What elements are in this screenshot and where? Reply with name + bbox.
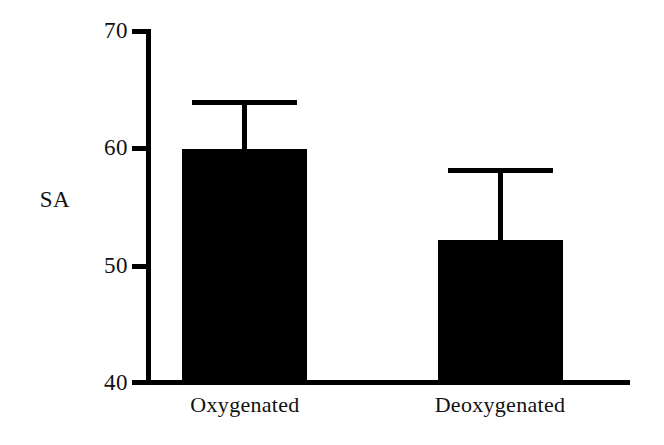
y-tick-label-70-wrap: 70 (58, 19, 128, 43)
y-tick-60 (132, 146, 150, 151)
x-category-label-deoxygenated: Deoxygenated (410, 392, 590, 418)
errorbar-cap-oxygenated (192, 100, 297, 105)
y-tick-label-60: 60 (82, 136, 128, 159)
y-tick-label-40: 40 (82, 371, 128, 394)
errorbar-cap-deoxygenated (448, 168, 553, 173)
y-tick-70 (132, 29, 150, 34)
x-category-label-oxygenated: Oxygenated (160, 392, 330, 418)
y-axis-title: SA (25, 188, 85, 212)
y-tick-label-60-wrap: 60 (58, 136, 128, 160)
y-tick-40 (132, 380, 150, 385)
errorbar-stem-oxygenated (242, 102, 247, 151)
y-tick-label-50-wrap: 50 (58, 254, 128, 278)
y-tick-label-50: 50 (82, 254, 128, 277)
errorbar-stem-deoxygenated (498, 170, 503, 242)
y-tick-label-40-wrap: 40 (58, 371, 128, 395)
bar-deoxygenated (438, 240, 563, 383)
y-axis-line (146, 29, 151, 385)
y-tick-label-70: 70 (82, 19, 128, 42)
bar-oxygenated (182, 149, 307, 383)
y-tick-50 (132, 264, 150, 269)
bar-chart: 70 60 50 40 SA Oxygenated Deoxygenated (0, 0, 664, 445)
